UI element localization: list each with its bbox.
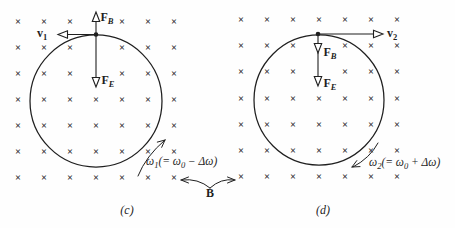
fb-arrowhead-c [92, 12, 99, 22]
cyclotron-resonance-figure: ××××××××××××××××××××××××××××××××××××××××… [0, 0, 455, 228]
velocity-v2-label: v2 [387, 27, 397, 39]
omega2-label: ω2(= ω0 + Δω) [369, 157, 440, 169]
caption-d: (d) [316, 204, 330, 216]
velocity-v1-label: v1 [37, 27, 47, 39]
omega1-label: ω1(= ω0 − Δω) [146, 156, 217, 168]
fe-arrowhead-c [92, 78, 99, 88]
force-fb-label-c: FB [100, 11, 113, 23]
b-field-label: B [206, 187, 214, 199]
v2-arrowhead [374, 30, 384, 37]
fe-arrowhead-d [314, 77, 321, 87]
orbit-circle-d [254, 35, 384, 165]
force-fe-label-d: FE [323, 77, 336, 89]
v1-arrowhead [58, 31, 68, 38]
fb-arrowhead-d [314, 44, 321, 54]
force-fb-label-d: FB [323, 46, 336, 58]
caption-c: (c) [120, 204, 133, 216]
force-fe-label-c: FE [101, 74, 114, 86]
